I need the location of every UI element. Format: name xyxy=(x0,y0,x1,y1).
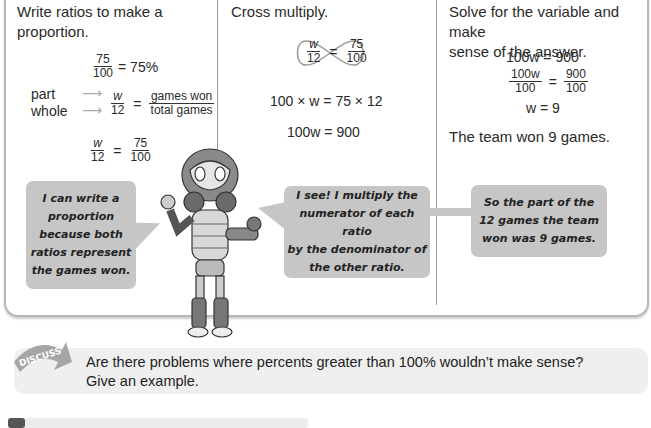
equation-games-won: w12 = games wontotal games xyxy=(106,90,218,117)
cross-multiply-diagram: w12 = 75100 xyxy=(296,36,364,70)
speech-bubble-1: I can write a proportion because both ra… xyxy=(26,181,136,289)
discuss-box: Are there problems where percents greate… xyxy=(14,348,648,394)
next-section-bar xyxy=(8,418,308,428)
answer-text: The team won 9 games. xyxy=(449,128,610,145)
discuss-badge-icon: DISCUSS xyxy=(10,332,72,382)
arrow-right-icon: ⟶ xyxy=(82,102,102,118)
column-heading: Write ratios to make a proportion. xyxy=(17,2,212,42)
speech-bubble-3: So the part of the 12 games the team won… xyxy=(471,185,607,257)
product-equation: 100w = 900 xyxy=(287,124,360,140)
column-write-ratios: Write ratios to make a proportion. xyxy=(17,0,212,42)
equation-rhs: = 75% xyxy=(118,59,158,75)
section-number-badge xyxy=(8,418,25,428)
robot-mascot-icon xyxy=(150,140,270,340)
solve-equation-1: 100w = 900 xyxy=(506,49,579,65)
column-heading: Cross multiply. xyxy=(231,2,426,22)
column-divider-2 xyxy=(436,0,437,305)
fraction: 75100 xyxy=(91,53,115,80)
whole-label: whole xyxy=(31,103,68,119)
arrow-right-icon: ⟶ xyxy=(82,85,102,101)
column-divider-1 xyxy=(217,0,218,150)
solve-equation-2: 100w100 = 900100 xyxy=(506,68,591,95)
connector-bar xyxy=(430,208,474,216)
equation-proportion: w12 = 75100 xyxy=(86,137,156,164)
solve-result: w = 9 xyxy=(526,100,560,116)
part-label: part xyxy=(31,86,55,102)
speech-bubble-2: I see! I multiply the numerator of each … xyxy=(284,186,430,278)
equation-75-percent: 75100 = 75% xyxy=(88,53,158,80)
discuss-question: Are there problems where percents greate… xyxy=(86,353,583,391)
cross-product-equation: 100 × w = 75 × 12 xyxy=(270,93,382,109)
column-cross-multiply: Cross multiply. xyxy=(231,0,426,22)
